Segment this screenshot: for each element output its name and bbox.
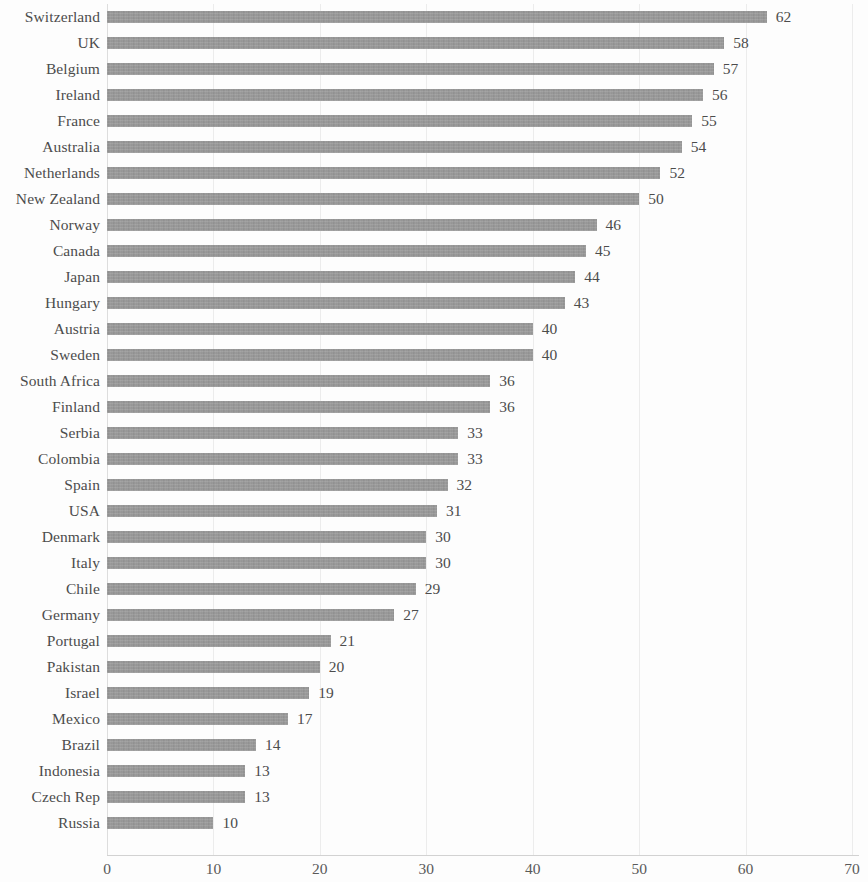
bar-serbia	[107, 427, 458, 439]
x-tick-70: 70	[822, 860, 868, 878]
category-label-netherlands: Netherlands	[0, 160, 100, 186]
value-label-brazil: 14	[265, 732, 281, 758]
bar-row: Germany27	[0, 602, 868, 628]
bar-row: Japan44	[0, 264, 868, 290]
bar-row: Australia54	[0, 134, 868, 160]
value-label-indonesia: 13	[254, 758, 270, 784]
category-label-hungary: Hungary	[0, 290, 100, 316]
value-label-serbia: 33	[467, 420, 483, 446]
bar-row: Pakistan20	[0, 654, 868, 680]
x-tick-0: 0	[77, 860, 137, 878]
bar-south-africa	[107, 375, 490, 387]
category-label-sweden: Sweden	[0, 342, 100, 368]
bar-row: Serbia33	[0, 420, 868, 446]
value-label-australia: 54	[691, 134, 707, 160]
value-label-south-africa: 36	[499, 368, 515, 394]
bar-row: Mexico17	[0, 706, 868, 732]
category-label-brazil: Brazil	[0, 732, 100, 758]
value-label-mexico: 17	[297, 706, 313, 732]
category-label-france: France	[0, 108, 100, 134]
bar-row: USA31	[0, 498, 868, 524]
plot-area: Switzerland62UK58Belgium57Ireland56Franc…	[0, 0, 868, 855]
category-label-australia: Australia	[0, 134, 100, 160]
bar-new-zealand	[107, 193, 639, 205]
category-label-usa: USA	[0, 498, 100, 524]
category-label-indonesia: Indonesia	[0, 758, 100, 784]
bar-row: Spain32	[0, 472, 868, 498]
x-tick-30: 30	[396, 860, 456, 878]
x-tick-20: 20	[290, 860, 350, 878]
bar-spain	[107, 479, 448, 491]
bar-row: Belgium57	[0, 56, 868, 82]
bar-israel	[107, 687, 309, 699]
bar-row: Ireland56	[0, 82, 868, 108]
category-label-japan: Japan	[0, 264, 100, 290]
x-axis-line	[107, 855, 859, 856]
bar-row: Portugal21	[0, 628, 868, 654]
bar-france	[107, 115, 692, 127]
category-label-ireland: Ireland	[0, 82, 100, 108]
category-label-germany: Germany	[0, 602, 100, 628]
category-label-belgium: Belgium	[0, 56, 100, 82]
value-label-pakistan: 20	[329, 654, 345, 680]
bar-row: Sweden40	[0, 342, 868, 368]
bar-germany	[107, 609, 394, 621]
bar-mexico	[107, 713, 288, 725]
bar-netherlands	[107, 167, 660, 179]
bar-row: France55	[0, 108, 868, 134]
value-label-japan: 44	[584, 264, 600, 290]
bar-row: UK58	[0, 30, 868, 56]
bar-ireland	[107, 89, 703, 101]
value-label-france: 55	[701, 108, 717, 134]
category-label-pakistan: Pakistan	[0, 654, 100, 680]
category-label-south-africa: South Africa	[0, 368, 100, 394]
bar-finland	[107, 401, 490, 413]
value-label-germany: 27	[403, 602, 419, 628]
bar-russia	[107, 817, 213, 829]
value-label-portugal: 21	[340, 628, 356, 654]
bar-row: Israel19	[0, 680, 868, 706]
bar-brazil	[107, 739, 256, 751]
value-label-colombia: 33	[467, 446, 483, 472]
value-label-sweden: 40	[542, 342, 558, 368]
bar-hungary	[107, 297, 565, 309]
category-label-finland: Finland	[0, 394, 100, 420]
bar-uk	[107, 37, 724, 49]
value-label-norway: 46	[606, 212, 622, 238]
value-label-czech-rep: 13	[254, 784, 270, 810]
value-label-belgium: 57	[723, 56, 739, 82]
bar-row: Hungary43	[0, 290, 868, 316]
bar-row: Canada45	[0, 238, 868, 264]
bar-row: Switzerland62	[0, 4, 868, 30]
x-tick-10: 10	[183, 860, 243, 878]
value-label-chile: 29	[425, 576, 441, 602]
bar-indonesia	[107, 765, 245, 777]
bar-row: Denmark30	[0, 524, 868, 550]
category-label-italy: Italy	[0, 550, 100, 576]
x-tick-40: 40	[503, 860, 563, 878]
value-label-uk: 58	[733, 30, 749, 56]
bar-usa	[107, 505, 437, 517]
value-label-denmark: 30	[435, 524, 451, 550]
category-label-switzerland: Switzerland	[0, 4, 100, 30]
value-label-israel: 19	[318, 680, 334, 706]
x-tick-60: 60	[716, 860, 776, 878]
category-label-czech-rep: Czech Rep	[0, 784, 100, 810]
bar-portugal	[107, 635, 331, 647]
bar-row: Netherlands52	[0, 160, 868, 186]
bar-switzerland	[107, 11, 767, 23]
bar-australia	[107, 141, 682, 153]
category-label-spain: Spain	[0, 472, 100, 498]
value-label-italy: 30	[435, 550, 451, 576]
bar-row: Chile29	[0, 576, 868, 602]
bar-japan	[107, 271, 575, 283]
bar-sweden	[107, 349, 533, 361]
category-label-norway: Norway	[0, 212, 100, 238]
bar-row: New Zealand50	[0, 186, 868, 212]
bar-canada	[107, 245, 586, 257]
bar-row: Czech Rep13	[0, 784, 868, 810]
bar-norway	[107, 219, 597, 231]
bar-austria	[107, 323, 533, 335]
value-label-netherlands: 52	[669, 160, 685, 186]
value-label-new-zealand: 50	[648, 186, 664, 212]
